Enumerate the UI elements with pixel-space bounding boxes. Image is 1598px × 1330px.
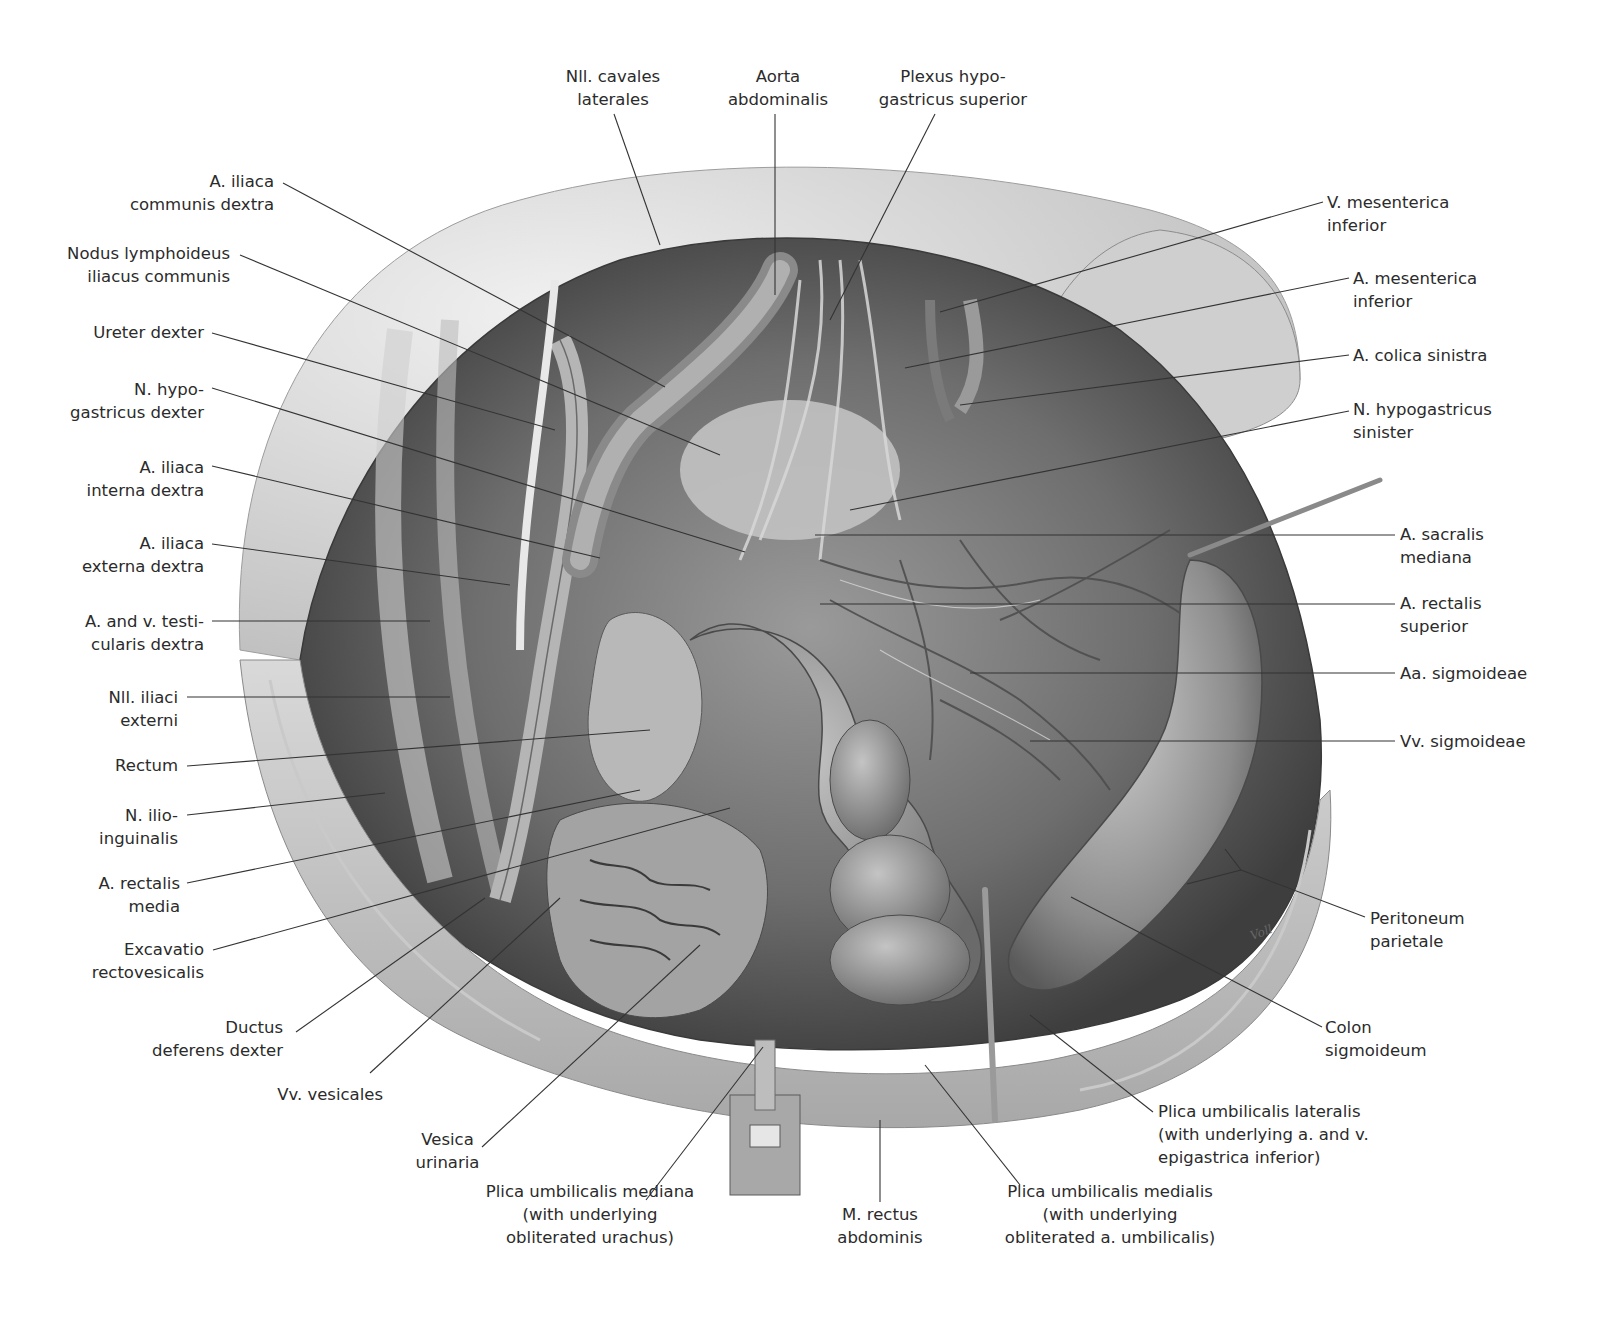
label-vv-sigmoideae: Vv. sigmoideae [1400, 730, 1590, 753]
label-vesica-urinaria: Vesica urinaria [400, 1128, 495, 1174]
label-ductus-deferens-dexter: Ductus deferens dexter [100, 1016, 283, 1062]
label-a-iliaca-interna-dextra: A. iliaca interna dextra [30, 456, 204, 502]
label-colon-sigmoideum: Colon sigmoideum [1325, 1016, 1515, 1062]
label-peritoneum-parietale: Peritoneum parietale [1370, 907, 1560, 953]
label-a-colica-sinistra: A. colica sinistra [1353, 344, 1553, 367]
label-nodus-lymphoideus-iliacus-communis: Nodus lymphoideus iliacus communis [30, 242, 230, 288]
label-plexus-hypogastricus-superior: Plexus hypo- gastricus superior [868, 65, 1038, 111]
label-m-rectus-abdominis: M. rectus abdominis [820, 1203, 940, 1249]
label-n-hypogastricus-dexter: N. hypo- gastricus dexter [30, 378, 204, 424]
label-a-sacralis-mediana: A. sacralis mediana [1400, 523, 1590, 569]
label-plica-umbilicalis-medialis: Plica umbilicalis medialis (with underly… [985, 1180, 1235, 1249]
label-a-v-testicularis-dextra: A. and v. testi- cularis dextra [30, 610, 204, 656]
label-a-rectalis-media: A. rectalis media [30, 872, 180, 918]
label-a-mesenterica-inferior: A. mesenterica inferior [1353, 267, 1553, 313]
label-vv-vesicales: Vv. vesicales [200, 1083, 383, 1106]
label-rectum: Rectum [30, 754, 178, 777]
label-aorta-abdominalis: Aorta abdominalis [713, 65, 843, 111]
label-a-rectalis-superior: A. rectalis superior [1400, 592, 1590, 638]
label-a-iliaca-externa-dextra: A. iliaca externa dextra [30, 532, 204, 578]
label-plica-umbilicalis-mediana: Plica umbilicalis mediana (with underlyi… [470, 1180, 710, 1249]
label-excavatio-rectovesicalis: Excavatio rectovesicalis [30, 938, 204, 984]
label-a-iliaca-communis-dextra: A. iliaca communis dextra [60, 170, 274, 216]
label-n-hypogastricus-sinister: N. hypogastricus sinister [1353, 398, 1553, 444]
anatomical-figure: Voll [0, 0, 1598, 1330]
label-n-ilioinguinalis: N. ilio- inguinalis [30, 804, 178, 850]
label-nll-cavales-laterales: Nll. cavales laterales [548, 65, 678, 111]
label-v-mesenterica-inferior: V. mesenterica inferior [1327, 191, 1527, 237]
label-nll-iliaci-externi: Nll. iliaci externi [30, 686, 178, 732]
label-plica-umbilicalis-lateralis: Plica umbilicalis lateralis (with underl… [1158, 1100, 1418, 1169]
label-ureter-dexter: Ureter dexter [30, 321, 204, 344]
label-aa-sigmoideae: Aa. sigmoideae [1400, 662, 1590, 685]
